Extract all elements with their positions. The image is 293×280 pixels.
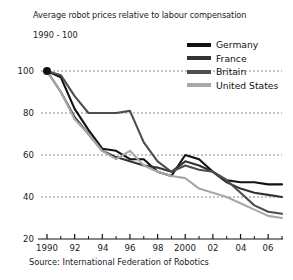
x-tick-02: 02 (198, 243, 228, 253)
y-tick-100: 100 (12, 66, 34, 76)
y-tick-40: 40 (12, 192, 34, 202)
x-tick-06: 06 (253, 243, 283, 253)
chart-subtitle: 1990 - 100 (33, 30, 78, 40)
legend-label-britain: Britain (216, 67, 246, 76)
y-tick-60: 60 (12, 150, 34, 160)
legend-item-germany[interactable]: Germany (187, 38, 291, 52)
chart-figure: Average robot prices relative to labour … (0, 0, 293, 280)
x-axis (38, 234, 283, 239)
series-line (47, 71, 282, 218)
y-tick-20: 20 (12, 234, 34, 244)
x-tick-94: 94 (88, 243, 118, 253)
legend-item-united-states[interactable]: United States (187, 79, 291, 93)
series-line (47, 71, 282, 214)
legend-item-france[interactable]: France (187, 52, 291, 66)
chart-source: Source: International Federation of Robo… (29, 257, 209, 267)
chart-title: Average robot prices relative to labour … (33, 10, 246, 20)
legend-swatch-united-states (187, 83, 211, 87)
x-tick-96: 96 (115, 243, 145, 253)
legend-label-united-states: United States (216, 81, 278, 90)
chart-legend: Germany France Britain United States (187, 38, 291, 92)
x-tick-98: 98 (143, 243, 173, 253)
x-tick-92: 92 (60, 243, 90, 253)
legend-item-britain[interactable]: Britain (187, 65, 291, 79)
x-tick-2000: 2000 (170, 243, 200, 253)
legend-swatch-germany (187, 43, 211, 47)
legend-label-germany: Germany (216, 40, 258, 49)
legend-swatch-france (187, 56, 211, 60)
legend-label-france: France (216, 54, 247, 63)
x-tick-04: 04 (226, 243, 256, 253)
start-marker (43, 67, 51, 75)
y-tick-80: 80 (12, 108, 34, 118)
x-tick-1990: 1990 (32, 243, 62, 253)
legend-swatch-britain (187, 70, 211, 74)
